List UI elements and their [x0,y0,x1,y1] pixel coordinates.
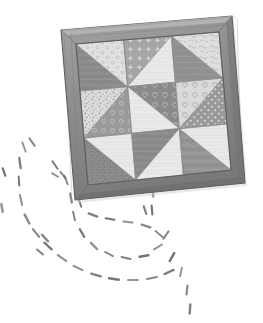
quilt-cell-r3c1 [84,133,136,185]
quilt-cell-r2c3 [175,78,227,129]
quilt-cell-r1c1 [76,40,128,91]
quilt-cell-r2c2 [128,82,180,133]
stitch-dash [19,158,20,168]
quilt-cell-r3c2 [132,129,184,180]
stitch-dash [19,177,20,186]
stitch-dash [109,278,119,279]
stitch-dash [140,255,149,257]
stitch-dash [190,305,191,314]
stitch-dash [1,204,2,212]
quilt-cell-r2c1 [80,87,132,138]
stitch-dash [152,206,153,215]
quilt-cell-r1c2 [124,36,176,87]
illustration-canvas [0,0,263,323]
stitch-dash [124,222,133,223]
quilt-patchwork [76,32,231,185]
quilt-illustration [0,0,263,323]
stitch-dash [70,194,72,203]
quilt-cell-r1c3 [171,32,223,82]
stitch-dash [187,286,188,295]
quilt-cell-r3c3 [179,124,231,175]
